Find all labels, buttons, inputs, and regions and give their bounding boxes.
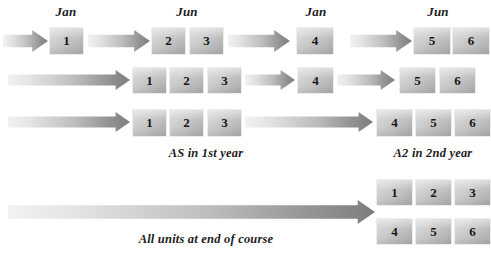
- unit-number-label: 5: [414, 73, 421, 89]
- unit-box-row-3-unit-2: 2: [170, 110, 203, 136]
- unit-number-label: 1: [146, 115, 153, 131]
- unit-number-label: 6: [468, 33, 475, 49]
- unit-box-row-1-unit-3: 3: [190, 28, 223, 54]
- progress-arrow-r1-2: [88, 30, 150, 52]
- progress-arrow-r1-4: [350, 30, 412, 52]
- unit-number-label: 6: [469, 115, 476, 131]
- unit-box-row-1-unit-4: 4: [297, 28, 333, 54]
- unit-number-label: 6: [469, 224, 476, 240]
- unit-box-row-4-unit-5: 5: [416, 219, 451, 244]
- progress-arrow-r2-3: [337, 70, 395, 90]
- unit-box-row-2-unit-3: 3: [208, 68, 241, 93]
- unit-box-row-4-unit-6: 6: [455, 219, 490, 244]
- unit-box-row-2-unit-5: 5: [400, 68, 435, 93]
- unit-number-label: 4: [312, 33, 319, 49]
- progress-arrow-r3-1: [8, 112, 130, 132]
- unit-number-label: 4: [391, 224, 398, 240]
- unit-box-row-4-unit-4: 4: [377, 219, 412, 244]
- unit-box-row-3-unit-5: 5: [416, 110, 451, 136]
- unit-number-label: 6: [454, 73, 461, 89]
- unit-number-label: 5: [429, 33, 436, 49]
- unit-box-row-4-unit-3: 3: [455, 180, 490, 205]
- unit-box-row-1-unit-6: 6: [453, 28, 489, 54]
- unit-box-row-2-unit-2: 2: [170, 68, 203, 93]
- progress-arrow-r3-2: [245, 112, 373, 132]
- unit-number-label: 2: [183, 115, 190, 131]
- unit-number-label: 4: [391, 115, 398, 131]
- month-label-jun-2: Jun: [176, 4, 198, 20]
- progress-arrow-r4-1: [8, 200, 375, 224]
- unit-number-label: 2: [183, 73, 190, 89]
- unit-number-label: 2: [430, 185, 437, 201]
- unit-number-label: 4: [312, 73, 319, 89]
- unit-box-row-4-unit-2: 2: [416, 180, 451, 205]
- unit-box-row-3-unit-3: 3: [208, 110, 241, 136]
- unit-box-row-3-unit-6: 6: [455, 110, 490, 136]
- unit-box-row-2-unit-1: 1: [133, 68, 166, 93]
- unit-number-label: 3: [221, 73, 228, 89]
- unit-box-row-1-unit-1: 1: [50, 28, 83, 54]
- unit-box-row-4-unit-1: 1: [377, 180, 412, 205]
- unit-number-label: 1: [146, 73, 153, 89]
- unit-box-row-1-unit-2: 2: [152, 28, 185, 54]
- unit-number-label: 2: [165, 33, 172, 49]
- month-label-jun-4: Jun: [427, 4, 449, 20]
- unit-number-label: 3: [221, 115, 228, 131]
- unit-number-label: 3: [203, 33, 210, 49]
- unit-box-row-1-unit-5: 5: [414, 28, 450, 54]
- diagram-canvas: JanJunJanJun123456123456123456123456AS i…: [0, 0, 491, 260]
- unit-number-label: 1: [63, 33, 70, 49]
- unit-number-label: 1: [391, 185, 398, 201]
- progress-arrow-r2-1: [8, 70, 130, 90]
- unit-number-label: 3: [469, 185, 476, 201]
- unit-box-row-3-unit-1: 1: [133, 110, 166, 136]
- month-label-jan-3: Jan: [306, 4, 327, 20]
- caption-3: All units at end of course: [139, 232, 274, 247]
- month-label-jan-1: Jan: [56, 4, 77, 20]
- progress-arrow-r1-3: [228, 30, 290, 52]
- unit-number-label: 5: [430, 115, 437, 131]
- unit-box-row-2-unit-4: 4: [298, 68, 333, 93]
- caption-1: AS in 1st year: [169, 146, 244, 161]
- caption-2: A2 in 2nd year: [394, 146, 473, 161]
- unit-box-row-3-unit-4: 4: [377, 110, 412, 136]
- progress-arrow-r2-2: [245, 70, 295, 90]
- progress-arrow-r1-1: [3, 30, 48, 52]
- unit-number-label: 5: [430, 224, 437, 240]
- unit-box-row-2-unit-6: 6: [440, 68, 475, 93]
